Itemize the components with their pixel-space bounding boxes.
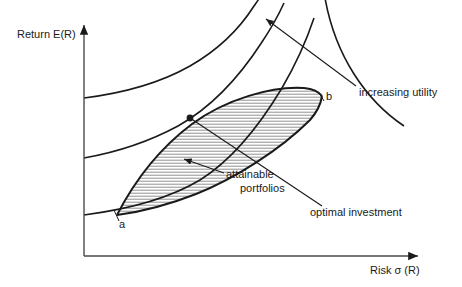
y-axis-label: Return E(R) xyxy=(17,28,76,41)
indifference-curve-4 xyxy=(325,0,404,126)
point-a-label: a xyxy=(119,218,125,230)
x-axis-label-symbol: σ (R) xyxy=(394,264,419,276)
increasing-utility-label: increasing utility xyxy=(359,86,437,99)
x-axis-label: Risk σ (R) xyxy=(370,264,420,277)
portfolio-risk-return-diagram: Return E(R) Risk σ (R) increasing utilit… xyxy=(0,0,462,287)
y-axis-label-prefix: Return xyxy=(17,28,53,40)
optimal-point-marker xyxy=(187,115,194,122)
y-axis-label-symbol: E(R) xyxy=(53,28,76,40)
point-b-label: b xyxy=(326,90,332,102)
attainable-portfolios-line1: attainable xyxy=(226,168,274,180)
attainable-portfolios-line2: portfolios xyxy=(226,181,285,195)
optimal-investment-label: optimal investment xyxy=(310,206,402,219)
diagram-canvas xyxy=(0,0,462,287)
indifference-curve-3 xyxy=(84,0,259,98)
attainable-portfolios-label: attainable portfolios xyxy=(226,167,285,195)
x-axis-label-prefix: Risk xyxy=(370,264,394,276)
